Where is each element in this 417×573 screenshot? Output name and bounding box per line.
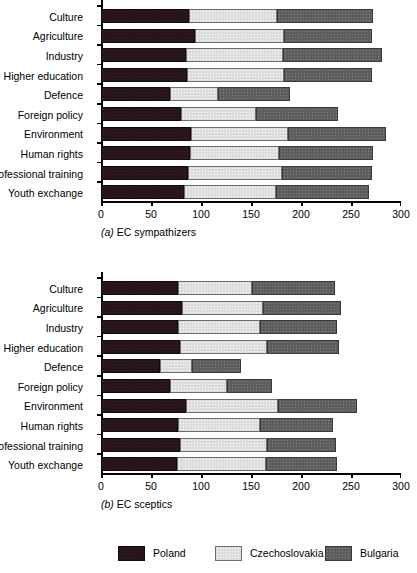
- plot-area-a: CultureAgricultureIndustryHigher educati…: [101, 0, 401, 201]
- bar-segment-poland: [101, 301, 182, 315]
- x-tick: [201, 201, 203, 206]
- caption-a: (a) EC sympathizers: [101, 227, 196, 238]
- stacked-bar: [101, 68, 372, 82]
- bar-row: Environment: [101, 127, 401, 141]
- bar-segment-poland: [101, 9, 189, 23]
- stacked-bar: [101, 29, 372, 43]
- x-tick: [201, 473, 203, 478]
- bar-segment-bulgaria: [267, 340, 339, 354]
- stacked-bar: [101, 399, 357, 413]
- x-tick-label: 50: [145, 481, 157, 492]
- category-label: Environment: [0, 129, 83, 140]
- x-tick-label: 0: [98, 209, 104, 220]
- bar-segment-czechoslovakia: [188, 166, 282, 180]
- stacked-bar: [101, 457, 337, 471]
- bar-segment-bulgaria: [218, 87, 290, 101]
- x-tick-label: 300: [392, 209, 410, 220]
- bar-row: Industry: [101, 320, 401, 334]
- category-label: Agriculture: [0, 31, 83, 42]
- x-tick: [101, 201, 103, 206]
- x-tick-label: 50: [145, 209, 157, 220]
- chart-ec-sympathizers: CultureAgricultureIndustryHigher educati…: [0, 0, 417, 255]
- x-tick-label: 150: [242, 481, 260, 492]
- x-tick: [301, 473, 303, 478]
- x-tick: [151, 201, 153, 206]
- bar-segment-czechoslovakia: [182, 301, 263, 315]
- bar-segment-poland: [101, 68, 187, 82]
- bar-row: Foreign policy: [101, 379, 401, 393]
- category-label: Industry: [0, 51, 83, 62]
- bar-segment-czechoslovakia: [189, 9, 277, 23]
- bar-row: Defence: [101, 359, 401, 373]
- category-label: Youth exchange: [0, 460, 83, 471]
- bar-row: Agriculture: [101, 301, 401, 315]
- bar-segment-czechoslovakia: [178, 281, 252, 295]
- x-tick-label: 300: [392, 481, 410, 492]
- legend-label: Czechoslovakia: [250, 548, 324, 559]
- legend-item-czechoslovakia[interactable]: Czechoslovakia: [215, 545, 324, 561]
- legend-item-bulgaria[interactable]: Bulgaria: [325, 545, 399, 561]
- bar-segment-czechoslovakia: [170, 379, 227, 393]
- bar-segment-czechoslovakia: [180, 340, 267, 354]
- bar-row: Culture: [101, 281, 401, 295]
- bar-segment-bulgaria: [227, 379, 272, 393]
- bar-segment-bulgaria: [192, 359, 241, 373]
- category-label: Professional training: [0, 441, 83, 452]
- legend-swatch-poland: [118, 546, 145, 561]
- x-tick: [101, 473, 103, 478]
- stacked-bar: [101, 48, 382, 62]
- legend-item-poland[interactable]: Poland: [118, 545, 186, 561]
- bar-segment-poland: [101, 146, 190, 160]
- bar-row: Youth exchange: [101, 457, 401, 471]
- bar-segment-poland: [101, 438, 180, 452]
- bar-segment-poland: [101, 457, 177, 471]
- bar-row: Culture: [101, 9, 401, 23]
- bar-segment-poland: [101, 359, 160, 373]
- x-tick-labels-b: 050100150200250300: [101, 481, 401, 495]
- bar-segment-bulgaria: [282, 166, 372, 180]
- plot-area-b: CultureAgricultureIndustryHigher educati…: [101, 272, 401, 473]
- bar-segment-poland: [101, 166, 188, 180]
- bar-segment-czechoslovakia: [195, 29, 284, 43]
- bar-segment-czechoslovakia: [178, 418, 260, 432]
- bar-row: Professional training: [101, 438, 401, 452]
- bar-row: Defence: [101, 87, 401, 101]
- bar-row: Higher education: [101, 68, 401, 82]
- bar-segment-bulgaria: [283, 48, 382, 62]
- category-label: Environment: [0, 401, 83, 412]
- bar-segment-poland: [101, 379, 170, 393]
- bar-segment-poland: [101, 127, 191, 141]
- category-label: Foreign policy: [0, 382, 83, 393]
- legend-swatch-czechoslovakia: [215, 546, 242, 561]
- bar-segment-poland: [101, 418, 178, 432]
- x-tick-label: 250: [342, 209, 360, 220]
- category-label: Agriculture: [0, 303, 83, 314]
- x-tick: [351, 473, 353, 478]
- caption-b: (b) EC sceptics: [101, 499, 172, 510]
- bar-segment-poland: [101, 29, 195, 43]
- bar-row: Human rights: [101, 146, 401, 160]
- stacked-bar: [101, 166, 372, 180]
- x-tick: [301, 201, 303, 206]
- bar-segment-bulgaria: [263, 301, 341, 315]
- legend-label: Bulgaria: [360, 548, 399, 559]
- stacked-bar: [101, 146, 373, 160]
- bar-row: Agriculture: [101, 29, 401, 43]
- category-label: Human rights: [0, 149, 83, 160]
- bar-segment-poland: [101, 320, 178, 334]
- legend: PolandCzechoslovakiaBulgaria: [0, 545, 417, 565]
- bar-segment-poland: [101, 399, 186, 413]
- bar-segment-czechoslovakia: [184, 185, 276, 199]
- x-tick-label: 100: [192, 481, 210, 492]
- caption-index: (b): [101, 498, 114, 510]
- x-axis-a: [101, 201, 401, 203]
- stacked-bar: [101, 359, 241, 373]
- stacked-bar: [101, 340, 339, 354]
- x-tick-label: 200: [292, 209, 310, 220]
- x-tick: [351, 201, 353, 206]
- stacked-bar: [101, 379, 272, 393]
- category-label: Industry: [0, 323, 83, 334]
- caption-text: EC sceptics: [114, 498, 172, 510]
- bar-segment-poland: [101, 107, 181, 121]
- bar-segment-bulgaria: [276, 185, 369, 199]
